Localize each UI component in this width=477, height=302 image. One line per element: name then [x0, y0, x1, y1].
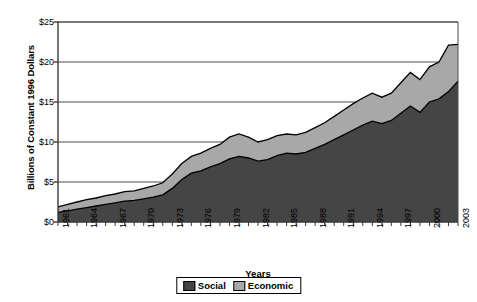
- legend-label-social: Social: [198, 280, 226, 291]
- legend-swatch-economic: [233, 281, 245, 291]
- legend-label-economic: Economic: [248, 280, 293, 291]
- legend-item-economic: Economic: [233, 280, 293, 291]
- legend-swatch-social: [183, 281, 195, 291]
- chart-legend: Social Economic: [176, 277, 301, 294]
- chart-container: Billions of Constant 1996 Dollars Years …: [0, 0, 477, 302]
- chart-plot-area: [0, 0, 477, 302]
- legend-item-social: Social: [183, 280, 226, 291]
